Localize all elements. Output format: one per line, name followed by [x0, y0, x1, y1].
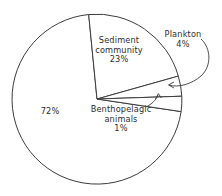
slice-value-text: 72% — [36, 107, 64, 117]
slice-label-plankton: Plankton 4% — [158, 30, 208, 49]
slice-value-text: 1% — [84, 124, 158, 134]
slice-value-text: 23% — [88, 55, 150, 65]
slice-label-remainder: 72% — [36, 107, 64, 117]
slice-label-benthopelagic-animals: Benthopelagic animals 1% — [84, 105, 158, 134]
slice-label-sediment-community: Sediment community 23% — [88, 36, 150, 65]
pie-chart-figure: Sediment community 23% Plankton 4% Benth… — [0, 0, 222, 196]
slice-value-text: 4% — [158, 40, 208, 50]
